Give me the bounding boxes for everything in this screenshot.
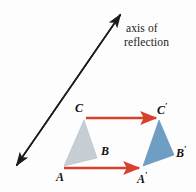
vertex-label-b-prime-text: B (176, 146, 184, 160)
vertex-label-a-text: A (56, 170, 64, 184)
diagram-canvas (0, 0, 196, 192)
vertex-label-c-text: C (75, 101, 83, 115)
vertex-label-b-prime: B′ (176, 144, 187, 161)
vertex-label-a: A (56, 170, 64, 185)
prime-mark-a: ′ (145, 170, 148, 180)
axis-arrow-upper-right (17, 15, 121, 166)
vertex-label-a-prime: A′ (137, 170, 148, 187)
prime-mark-b: ′ (184, 144, 187, 154)
vertex-label-a-prime-text: A (137, 172, 145, 186)
vertex-label-b-text: B (101, 144, 109, 158)
image-triangle-abc-prime (143, 120, 174, 166)
axis-caption-line-1: axis of (126, 22, 158, 35)
vertex-label-c-prime-text: C (157, 103, 165, 117)
axis-caption-line-2: reflection (124, 36, 169, 49)
reflection-diagram: axis of reflection C C′ B B′ A A′ (0, 0, 196, 192)
vertex-label-b: B (101, 144, 109, 159)
vertex-label-c-prime: C′ (157, 101, 168, 118)
vertex-label-c: C (75, 101, 83, 116)
axis-of-reflection-line (17, 15, 121, 166)
prime-mark-c: ′ (165, 101, 168, 111)
preimage-triangle-abc (64, 120, 97, 166)
